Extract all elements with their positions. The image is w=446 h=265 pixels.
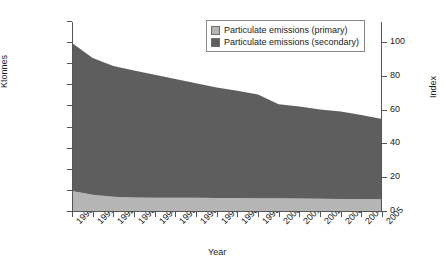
- tick-label: 80: [390, 70, 400, 80]
- tick-mark: [382, 110, 387, 111]
- tick-mark: [382, 177, 387, 178]
- tick-mark: [93, 212, 94, 217]
- legend: Particulate emissions (primary) Particul…: [206, 20, 365, 52]
- tick-mark: [113, 212, 114, 217]
- tick-mark: [155, 212, 156, 217]
- tick-mark: [72, 212, 73, 217]
- tick-mark: [279, 212, 280, 217]
- tick-label: 100: [390, 36, 405, 46]
- tick-mark: [382, 42, 387, 43]
- tick-mark: [175, 212, 176, 217]
- tick-mark: [237, 212, 238, 217]
- x-axis-title: Year: [208, 247, 226, 257]
- legend-label-primary: Particulate emissions (primary): [224, 25, 348, 35]
- tick-mark: [382, 212, 383, 217]
- chart-screenshot: Ktonnes Index Year 05,00010,00015,00020,…: [0, 0, 446, 265]
- tick-mark: [258, 212, 259, 217]
- legend-swatch-secondary: [211, 38, 220, 47]
- legend-item-secondary: Particulate emissions (secondary): [211, 36, 359, 48]
- tick-mark: [341, 212, 342, 217]
- tick-mark: [196, 212, 197, 217]
- tick-label: 20: [390, 171, 400, 181]
- y-axis-right-title: Index: [428, 76, 438, 98]
- tick-mark: [382, 143, 387, 144]
- tick-label: 40: [390, 137, 400, 147]
- tick-label: 60: [390, 104, 400, 114]
- tick-mark: [217, 212, 218, 217]
- y-axis-left-title: Ktonnes: [0, 55, 9, 88]
- tick-mark: [320, 212, 321, 217]
- tick-mark: [134, 212, 135, 217]
- legend-item-primary: Particulate emissions (primary): [211, 24, 359, 36]
- tick-mark: [382, 76, 387, 77]
- legend-swatch-primary: [211, 26, 220, 35]
- tick-label: 2005: [384, 205, 405, 226]
- tick-mark: [299, 212, 300, 217]
- legend-label-secondary: Particulate emissions (secondary): [224, 37, 359, 47]
- tick-mark: [361, 212, 362, 217]
